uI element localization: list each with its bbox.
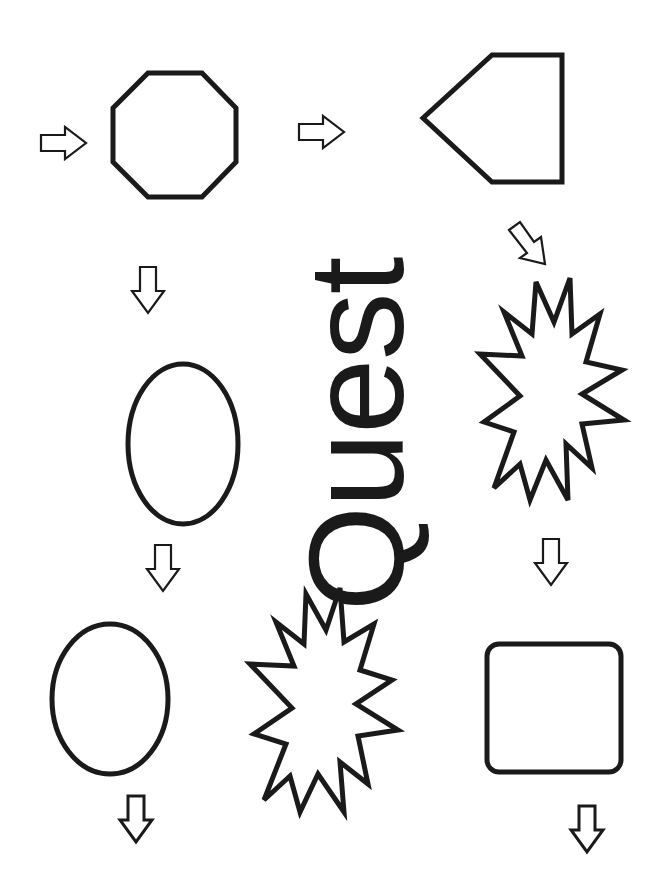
arrow-down-icon	[533, 538, 569, 588]
arrow-down-icon	[145, 544, 181, 594]
ellipse-shape	[48, 620, 172, 778]
arrow-diagonal-icon	[506, 218, 552, 268]
rounded-square-shape	[484, 641, 626, 777]
title-container: Quest	[300, 280, 412, 590]
starburst-shape	[474, 272, 630, 504]
arrow-down-icon	[569, 805, 605, 855]
pentagon-shape	[420, 52, 566, 186]
page-title: Quest	[288, 259, 424, 612]
worksheet-canvas: Quest	[0, 0, 663, 889]
arrow-down-icon	[118, 795, 154, 845]
arrow-right-icon	[298, 114, 346, 150]
starburst-shape	[234, 584, 404, 816]
arrow-down-icon	[130, 266, 166, 316]
octagon-shape	[110, 70, 240, 200]
arrow-right-icon	[40, 125, 88, 161]
ellipse-shape	[124, 360, 242, 528]
